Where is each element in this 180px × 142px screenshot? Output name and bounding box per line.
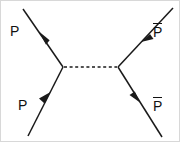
antiparticle-overbar-wrap-bottom-right: P: [153, 97, 162, 113]
leg-line-top-right: [118, 8, 173, 67]
particle-label-bottom-left: P: [18, 98, 27, 112]
feynman-diagram-canvas: P P P P: [0, 0, 180, 142]
overbar-icon-bottom-right: [153, 97, 162, 98]
particle-label-bottom-left-text: P: [18, 97, 27, 113]
particle-label-top-left: P: [10, 24, 19, 38]
arrowhead-top-left: [39, 32, 50, 45]
particle-label-top-right-text: P: [153, 24, 162, 40]
particle-label-bottom-right: P: [153, 97, 162, 113]
antiparticle-overbar-wrap-top-right: P: [153, 23, 162, 39]
particle-label-top-left-text: P: [10, 23, 19, 39]
particle-label-top-right: P: [153, 23, 162, 39]
overbar-icon-top-right: [153, 23, 162, 24]
particle-label-bottom-right-text: P: [153, 98, 162, 114]
arrowhead-bottom-right: [130, 92, 141, 103]
arrowhead-bottom-left: [39, 92, 51, 104]
